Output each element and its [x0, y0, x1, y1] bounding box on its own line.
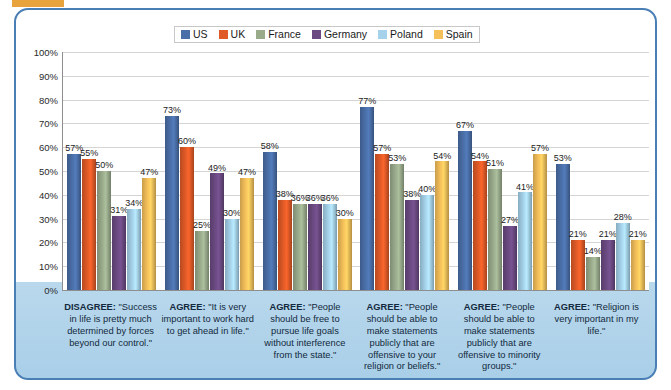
- bar-holder: 21%: [631, 240, 645, 290]
- bar-france[interactable]: 25%: [195, 231, 209, 291]
- bar-uk[interactable]: 55%: [82, 159, 96, 290]
- bar-france[interactable]: 36%: [293, 204, 307, 290]
- bar-poland[interactable]: 30%: [225, 219, 239, 290]
- bar-value-label: 41%: [516, 183, 534, 193]
- bar-germany[interactable]: 36%: [308, 204, 322, 290]
- category-label-prefix: DISAGREE:: [64, 302, 116, 312]
- bar-spain[interactable]: 30%: [338, 219, 352, 290]
- bar-groups: 57%55%50%31%34%47%73%60%25%49%30%47%58%3…: [63, 52, 649, 290]
- bar-germany[interactable]: 27%: [503, 226, 517, 290]
- bar-holder: 21%: [571, 240, 585, 290]
- bar-uk[interactable]: 57%: [375, 154, 389, 290]
- bar-spain[interactable]: 54%: [435, 161, 449, 290]
- bar-group: 77%57%53%38%40%54%: [356, 52, 454, 290]
- bar-spain[interactable]: 21%: [631, 240, 645, 290]
- bar-holder: 50%: [97, 171, 111, 290]
- bar-holder: 67%: [458, 131, 472, 290]
- bar-uk[interactable]: 21%: [571, 240, 585, 290]
- bar-group: 73%60%25%49%30%47%: [161, 52, 259, 290]
- bar-group: 57%55%50%31%34%47%: [63, 52, 161, 290]
- bar-holder: 34%: [127, 209, 141, 290]
- bar-us[interactable]: 73%: [165, 116, 179, 290]
- y-axis-tick-label: 0%: [44, 285, 58, 296]
- bar-holder: 54%: [473, 161, 487, 290]
- bar-poland[interactable]: 34%: [127, 209, 141, 290]
- y-axis-tick-label: 80%: [39, 94, 58, 105]
- legend-swatch-icon: [256, 30, 265, 39]
- category-label-prefix: AGREE:: [464, 302, 500, 312]
- bar-poland[interactable]: 28%: [616, 223, 630, 290]
- bar-value-label: 51%: [486, 159, 504, 169]
- bar-germany[interactable]: 31%: [112, 216, 126, 290]
- bar-france[interactable]: 53%: [390, 164, 404, 290]
- bar-value-label: 58%: [261, 142, 279, 152]
- y-axis: 0%10%20%30%40%50%60%70%80%90%100%: [24, 52, 58, 290]
- bar-holder: 21%: [601, 240, 615, 290]
- bar-spain[interactable]: 47%: [240, 178, 254, 290]
- chart-legend: USUKFranceGermanyPolandSpain: [174, 26, 480, 43]
- plot-area: 57%55%50%31%34%47%73%60%25%49%30%47%58%3…: [62, 52, 649, 291]
- bar-value-label: 36%: [321, 194, 339, 204]
- bar-holder: 28%: [616, 223, 630, 290]
- y-axis-tick-label: 10%: [39, 261, 58, 272]
- bar-value-label: 28%: [614, 213, 632, 223]
- legend-item-france[interactable]: France: [256, 29, 301, 40]
- y-axis-tick-label: 70%: [39, 118, 58, 129]
- bar-holder: 57%: [375, 154, 389, 290]
- bar-us[interactable]: 58%: [263, 152, 277, 290]
- bar-holder: 36%: [308, 204, 322, 290]
- bar-uk[interactable]: 38%: [278, 200, 292, 290]
- legend-item-germany[interactable]: Germany: [312, 29, 367, 40]
- bar-value-label: 34%: [125, 199, 143, 209]
- bar-holder: 14%: [586, 257, 600, 290]
- bar-poland[interactable]: 41%: [518, 192, 532, 290]
- category-label-prefix: AGREE:: [269, 302, 305, 312]
- bar-holder: 58%: [263, 152, 277, 290]
- legend-item-uk[interactable]: UK: [219, 29, 246, 40]
- bar-us[interactable]: 53%: [556, 164, 570, 290]
- legend-swatch-icon: [312, 30, 321, 39]
- bar-france[interactable]: 50%: [97, 171, 111, 290]
- bar-value-label: 27%: [501, 216, 519, 226]
- chart-frame: USUKFranceGermanyPolandSpain 0%10%20%30%…: [14, 8, 657, 380]
- legend-swatch-icon: [378, 30, 387, 39]
- legend-swatch-icon: [219, 30, 228, 39]
- bar-value-label: 55%: [80, 149, 98, 159]
- bar-value-label: 21%: [629, 230, 647, 240]
- bar-value-label: 40%: [418, 185, 436, 195]
- bar-holder: 77%: [360, 107, 374, 290]
- bar-poland[interactable]: 36%: [323, 204, 337, 290]
- category-label-body: "People should be able to make statement…: [458, 302, 541, 371]
- legend-item-label: US: [193, 29, 208, 40]
- bar-holder: 30%: [225, 219, 239, 290]
- bar-us[interactable]: 77%: [360, 107, 374, 290]
- bar-holder: 36%: [323, 204, 337, 290]
- bar-poland[interactable]: 40%: [420, 195, 434, 290]
- bar-group: 53%21%14%21%28%21%: [551, 52, 649, 290]
- category-label: DISAGREE: "Success in life is pretty muc…: [62, 302, 159, 378]
- bar-uk[interactable]: 54%: [473, 161, 487, 290]
- bar-value-label: 57%: [531, 144, 549, 154]
- bar-value-label: 54%: [433, 152, 451, 162]
- legend-item-label: France: [268, 29, 301, 40]
- category-label-prefix: AGREE:: [367, 302, 403, 312]
- bar-us[interactable]: 57%: [67, 154, 81, 290]
- bar-germany[interactable]: 21%: [601, 240, 615, 290]
- bar-germany[interactable]: 38%: [405, 200, 419, 290]
- category-label: AGREE: "People should be able to make st…: [354, 302, 451, 378]
- bar-germany[interactable]: 49%: [210, 173, 224, 290]
- bar-france[interactable]: 14%: [586, 257, 600, 290]
- bar-spain[interactable]: 47%: [142, 178, 156, 290]
- legend-item-spain[interactable]: Spain: [434, 29, 473, 40]
- legend-item-us[interactable]: US: [181, 29, 208, 40]
- category-label: AGREE: "Religion is very important in my…: [548, 302, 645, 378]
- category-label: AGREE: "People should be able to make st…: [451, 302, 548, 378]
- legend-item-poland[interactable]: Poland: [378, 29, 423, 40]
- bar-uk[interactable]: 60%: [180, 147, 194, 290]
- bar-holder: 49%: [210, 173, 224, 290]
- bar-france[interactable]: 51%: [488, 169, 502, 290]
- bar-spain[interactable]: 57%: [533, 154, 547, 290]
- bar-us[interactable]: 67%: [458, 131, 472, 290]
- bar-value-label: 21%: [569, 230, 587, 240]
- y-axis-tick-label: 40%: [39, 189, 58, 200]
